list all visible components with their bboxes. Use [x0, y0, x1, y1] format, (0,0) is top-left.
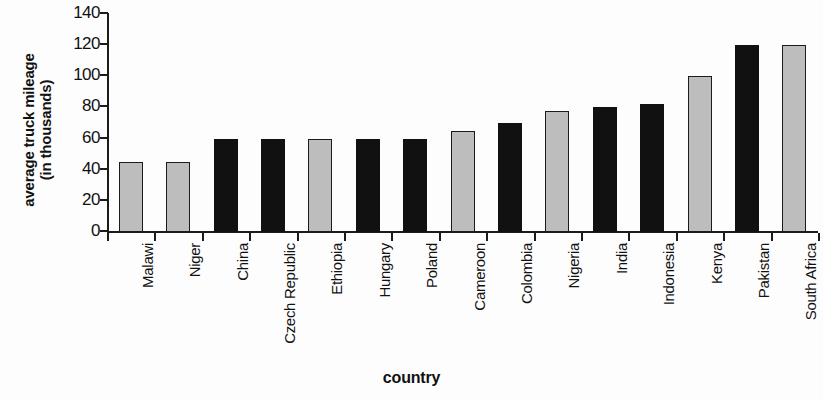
x-axis-tick-label: Nigeria: [565, 243, 583, 393]
bar: [688, 76, 712, 232]
bar: [498, 123, 522, 232]
x-axis-tick-label: Pakistan: [755, 243, 773, 393]
y-axis-tick-label: 140: [56, 3, 100, 23]
x-axis-tick-label: Czech Republic: [281, 243, 299, 393]
bar: [735, 45, 759, 232]
y-axis-title-line-1: average truck mileage: [21, 53, 38, 206]
bar: [214, 139, 238, 232]
x-axis-tick-mark: [486, 233, 488, 241]
bar: [451, 131, 475, 232]
x-axis-tick-mark: [391, 233, 393, 241]
bar: [261, 139, 285, 232]
y-axis-title-line-2: (in thousands): [38, 80, 55, 181]
x-axis-tick-mark: [344, 233, 346, 241]
plot-area: [107, 13, 818, 232]
y-axis-tick-mark: [100, 74, 108, 76]
bar: [782, 45, 806, 232]
x-axis-tick-mark: [154, 233, 156, 241]
bar: [308, 139, 332, 232]
x-axis-title: country: [0, 369, 823, 387]
x-axis-tick-mark: [628, 233, 630, 241]
y-axis-tick-mark: [100, 168, 108, 170]
y-axis-tick-mark: [100, 43, 108, 45]
x-axis-tick-mark: [771, 233, 773, 241]
x-axis-tick-mark: [297, 233, 299, 241]
bar: [119, 162, 143, 232]
x-axis-tick-mark: [818, 233, 820, 241]
y-axis-tick-label: 120: [56, 34, 100, 54]
bar: [356, 139, 380, 232]
bar: [403, 139, 427, 232]
bar-chart: average truck mileage (in thousands) 020…: [0, 0, 823, 400]
y-axis-tick-labels: 020406080100120140: [54, 0, 100, 400]
x-axis-tick-label: Kenya: [708, 243, 726, 393]
x-axis-tick-label: Colombia: [518, 243, 536, 393]
y-axis-tick-label: 20: [56, 190, 100, 210]
y-axis-tick-label: 0: [56, 221, 100, 241]
x-axis-tick-mark: [107, 233, 109, 241]
y-axis-tick-mark: [100, 105, 108, 107]
bar: [545, 111, 569, 232]
bar: [593, 107, 617, 232]
x-axis-tick-mark: [676, 233, 678, 241]
bar: [166, 162, 190, 232]
y-axis-tick-mark: [100, 230, 108, 232]
x-axis-tick-mark: [202, 233, 204, 241]
y-axis-tick-mark: [100, 199, 108, 201]
y-axis-tick-label: 80: [56, 96, 100, 116]
y-axis-tick-mark: [100, 137, 108, 139]
x-axis-tick-label: China: [234, 243, 252, 393]
x-axis-tick-label: Cameroon: [471, 243, 489, 393]
x-axis-tick-mark: [439, 233, 441, 241]
bar: [640, 104, 664, 232]
x-axis-tick-mark: [723, 233, 725, 241]
x-axis-tick-label: South Africa: [802, 243, 820, 393]
x-axis-tick-label: Indonesia: [660, 243, 678, 393]
x-axis-tick-mark: [249, 233, 251, 241]
x-axis-tick-label: Malawi: [139, 243, 157, 393]
x-axis-tick-label: Poland: [423, 243, 441, 393]
x-axis-tick-label: India: [613, 243, 631, 393]
x-axis-tick-label: Niger: [186, 243, 204, 393]
x-axis-tick-label: Ethiopia: [328, 243, 346, 393]
x-axis-tick-mark: [581, 233, 583, 241]
y-axis-tick-label: 40: [56, 159, 100, 179]
x-axis-tick-label: Hungary: [376, 243, 394, 393]
y-axis-tick-label: 60: [56, 128, 100, 148]
y-axis-tick-label: 100: [56, 65, 100, 85]
x-axis-tick-mark: [534, 233, 536, 241]
y-axis-tick-mark: [100, 12, 108, 14]
